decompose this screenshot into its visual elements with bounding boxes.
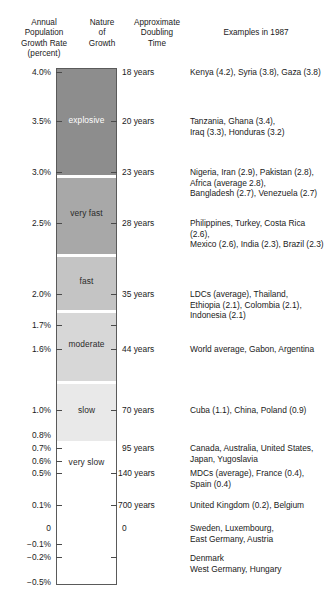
axis-label: 0.1% [3, 501, 51, 510]
doubling-time-value: 700 years [118, 501, 174, 510]
axis-label: −0.1% [3, 540, 51, 549]
column-header-growth-rate: Annual Population Growth Rate (percent) [11, 18, 77, 60]
axis-label: 1.7% [3, 321, 51, 330]
examples-entry: Canada, Australia, United States,Japan, … [190, 443, 324, 464]
examples-line: Canada, Australia, United States, [190, 443, 324, 454]
axis-label: 0 [3, 524, 51, 533]
examples-line: West Germany, Hungary [190, 564, 324, 575]
axis-label: 1.0% [3, 406, 51, 415]
examples-entry: DenmarkWest Germany, Hungary [190, 553, 324, 574]
axis-tick-left [56, 72, 62, 73]
examples-entry: Tanzania, Ghana (3.4),Iraq (3.3), Hondur… [190, 116, 324, 137]
axis-tick-left [56, 461, 62, 462]
axis-tick-right [111, 121, 117, 122]
axis-label: 3.5% [3, 117, 51, 126]
examples-line: Africa (average 2.8), [190, 178, 324, 189]
growth-band-slow: slow [57, 384, 116, 441]
examples-line: Spain (0.4) [190, 479, 324, 490]
examples-line: Indonesia (2.1) [190, 310, 324, 321]
axis-label: 0.6% [3, 457, 51, 466]
header-line: Approximate [126, 18, 188, 28]
axis-tick-left [56, 448, 62, 449]
axis-label: 2.0% [3, 290, 51, 299]
axis-tick-right [111, 349, 117, 350]
axis-tick-right [111, 557, 117, 558]
axis-tick-right [111, 473, 117, 474]
examples-line: Nigeria, Iran (2.9), Pakistan (2.8), [190, 167, 324, 178]
axis-label: 2.5% [3, 219, 51, 228]
examples-line: Kenya (4.2), Syria (3.8), Gaza (3.8) [190, 67, 324, 78]
axis-tick-left [56, 325, 62, 326]
doubling-time-value: 0 [122, 524, 172, 533]
examples-entry: World average, Gabon, Argentina [190, 344, 324, 355]
doubling-time-value: 70 years [122, 406, 172, 415]
growth-band-label: moderate [57, 339, 116, 349]
axis-label: 0.8% [3, 431, 51, 440]
header-line: Annual [11, 18, 77, 28]
axis-tick-left [56, 294, 62, 295]
examples-line: Denmark [190, 553, 324, 564]
growth-band-label: explosive [57, 115, 116, 125]
header-line: Time [126, 39, 188, 49]
doubling-time-value: 95 years [122, 444, 172, 453]
axis-label: −0.2% [3, 553, 51, 562]
examples-line: Ethiopia (2.1), Colombia (2.1), [190, 300, 324, 311]
examples-line: United Kingdom (0.2), Belgium [190, 500, 324, 511]
growth-band-label: slow [57, 405, 116, 415]
doubling-time-value: 23 years [122, 168, 172, 177]
axis-label: 4.0% [3, 68, 51, 77]
axis-tick-left [56, 349, 62, 350]
examples-line: MDCs (average), France (0.4), [190, 468, 324, 479]
growth-band-explosive: explosive [57, 69, 116, 175]
axis-label: 0.5% [3, 469, 51, 478]
doubling-time-value: 44 years [122, 345, 172, 354]
column-header-nature-of-growth: Nature of Growth [78, 18, 126, 49]
population-growth-rate-figure: Annual Population Growth Rate (percent) … [0, 0, 325, 605]
axis-tick-right [111, 223, 117, 224]
doubling-time-value: 28 years [122, 219, 172, 228]
doubling-time-value: 140 years [118, 469, 174, 478]
growth-band-label: very fast [57, 208, 116, 218]
examples-line: Bangladesh (2.7), Venezuela (2.7) [190, 188, 324, 199]
examples-line: Tanzania, Ghana (3.4), [190, 116, 324, 127]
growth-band-fast: fast [57, 257, 116, 310]
axis-tick-right [111, 325, 117, 326]
axis-tick-left [56, 121, 62, 122]
header-line: Growth Rate [11, 39, 77, 49]
examples-entry: United Kingdom (0.2), Belgium [190, 500, 324, 511]
column-header-examples: Examples in 1987 [190, 28, 322, 38]
axis-label: 1.6% [3, 345, 51, 354]
growth-band-label: very slow [57, 457, 116, 467]
examples-line: Japan, Yugoslavia [190, 454, 324, 465]
axis-label: −0.5% [3, 578, 51, 587]
examples-entry: Philippines, Turkey, Costa Rica (2.6),Me… [190, 218, 324, 250]
examples-line: Mexico (2.6), India (2.3), Brazil (2.3) [190, 239, 324, 250]
growth-band-moderate: moderate [57, 313, 116, 381]
header-line: Growth [78, 39, 126, 49]
axis-tick-left [56, 505, 62, 506]
doubling-time-value: 20 years [122, 117, 172, 126]
header-line: Population [11, 28, 77, 38]
examples-line: Philippines, Turkey, Costa Rica (2.6), [190, 218, 324, 239]
growth-band-very-slow: very slow [57, 444, 116, 584]
examples-line: Cuba (1.1), China, Poland (0.9) [190, 405, 324, 416]
examples-entry: Nigeria, Iran (2.9), Pakistan (2.8),Afri… [190, 167, 324, 199]
header-line: of [78, 28, 126, 38]
examples-entry: Kenya (4.2), Syria (3.8), Gaza (3.8) [190, 67, 324, 78]
growth-rate-scale-bar: explosivevery fastfastmoderateslowvery s… [56, 68, 117, 585]
axis-tick-left [56, 544, 62, 545]
examples-entry: Sweden, Luxembourg,East Germany, Austria [190, 523, 324, 544]
examples-line: East Germany, Austria [190, 534, 324, 545]
examples-entry: MDCs (average), France (0.4),Spain (0.4) [190, 468, 324, 489]
growth-band-label: fast [57, 276, 116, 286]
examples-entry: Cuba (1.1), China, Poland (0.9) [190, 405, 324, 416]
column-header-doubling-time: Approximate Doubling Time [126, 18, 188, 49]
header-line: Doubling [126, 28, 188, 38]
header-line: Nature [78, 18, 126, 28]
axis-tick-left [56, 473, 62, 474]
axis-tick-left [56, 223, 62, 224]
axis-tick-left [56, 410, 62, 411]
axis-tick-right [111, 505, 117, 506]
examples-entry: LDCs (average), Thailand,Ethiopia (2.1),… [190, 289, 324, 321]
axis-label: 0.7% [3, 444, 51, 453]
